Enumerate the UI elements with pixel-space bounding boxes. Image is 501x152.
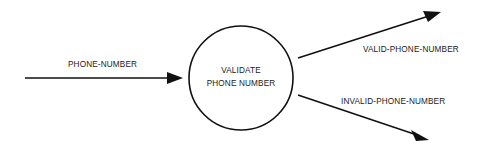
flow-output-valid-phone-number[interactable]: VALID-PHONE-NUMBER <box>298 11 459 58</box>
data-flow-diagram-canvas: PHONE-NUMBER VALIDATE PHONE NUMBER VALID… <box>0 0 501 152</box>
flow-label-invalid-phone-number: INVALID-PHONE-NUMBER <box>341 97 445 106</box>
flow-label-valid-phone-number: VALID-PHONE-NUMBER <box>363 45 459 54</box>
arrowhead-icon-invalid-phone-number <box>411 130 429 141</box>
diagram-svg: PHONE-NUMBER VALIDATE PHONE NUMBER VALID… <box>0 0 501 152</box>
arrowhead-icon-valid-phone-number <box>423 11 441 22</box>
flow-input-phone-number[interactable]: PHONE-NUMBER <box>25 60 183 84</box>
process-label-line-1: VALIDATE <box>221 66 261 75</box>
flow-label-phone-number: PHONE-NUMBER <box>68 60 137 69</box>
flow-output-invalid-phone-number[interactable]: INVALID-PHONE-NUMBER <box>298 95 445 141</box>
process-label-line-2: PHONE NUMBER <box>207 79 276 88</box>
arrowhead-icon-phone-number <box>167 72 183 84</box>
process-validate-phone-number[interactable]: VALIDATE PHONE NUMBER <box>189 26 293 130</box>
process-circle-shape <box>189 26 293 130</box>
